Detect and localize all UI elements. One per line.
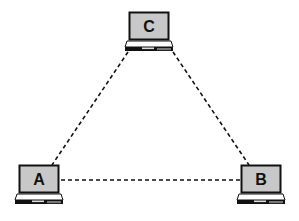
network-diagram: C A B [0, 0, 299, 221]
node-b[interactable]: B [236, 164, 286, 206]
edge-c-b [173, 52, 249, 165]
node-label: C [124, 18, 174, 36]
node-a[interactable]: A [14, 164, 64, 206]
node-c[interactable]: C [124, 11, 174, 53]
node-label: B [236, 171, 286, 189]
edge-c-a [52, 52, 128, 165]
node-label: A [14, 171, 64, 189]
